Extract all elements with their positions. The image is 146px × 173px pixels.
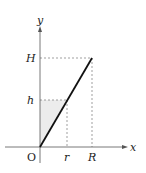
x-axis-label: x [130,141,137,154]
tick-label-h: h [27,94,34,107]
tick-label-H: H [25,52,36,65]
y-axis-label: y [36,14,44,27]
x-axis-arrow-icon [122,145,128,149]
origin-label: O [27,151,36,164]
tick-label-R: R [87,151,96,164]
diagram: y x O H h r R [0,0,146,173]
tick-label-r: r [64,151,70,164]
